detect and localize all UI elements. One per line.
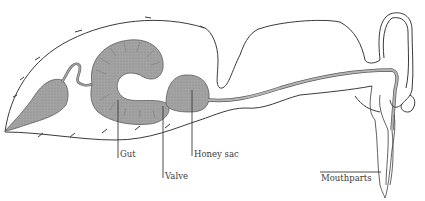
gut-label: Gut bbox=[120, 150, 136, 159]
head-outline bbox=[379, 13, 415, 112]
honey-sac bbox=[166, 75, 209, 112]
valve-label: Valve bbox=[165, 172, 188, 181]
honey-sac-label: Honey sac bbox=[194, 150, 239, 159]
diagram-drawing bbox=[0, 0, 425, 201]
mouthparts-label: Mouthparts bbox=[321, 174, 372, 183]
ant-anatomy-diagram: Gut Valve Honey sac Mouthparts bbox=[0, 0, 425, 201]
rectal-organ bbox=[5, 64, 92, 131]
gut-coil bbox=[91, 40, 169, 125]
esophagus-tube bbox=[208, 70, 397, 130]
